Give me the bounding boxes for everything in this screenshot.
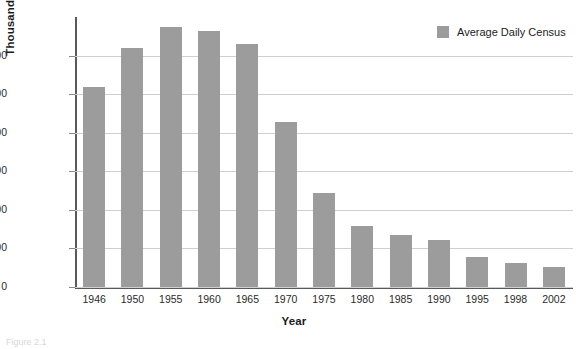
y-tick-label: 300 bbox=[0, 164, 7, 176]
x-axis-title: Year bbox=[0, 315, 588, 327]
bar bbox=[160, 27, 182, 287]
bar bbox=[236, 44, 258, 287]
bar bbox=[83, 87, 105, 287]
bar bbox=[313, 193, 335, 287]
bar bbox=[275, 122, 297, 287]
bar bbox=[198, 31, 220, 287]
y-tick-label: 100 bbox=[0, 241, 7, 253]
chart-legend: Average Daily Census bbox=[437, 26, 566, 38]
y-axis-title: Thousands of Patients bbox=[4, 0, 22, 88]
x-tick-label: 2002 bbox=[529, 293, 579, 305]
y-tick-label: 400 bbox=[0, 126, 7, 138]
y-tick-label: 0 bbox=[0, 280, 7, 292]
bar bbox=[505, 263, 527, 287]
y-tick-mark bbox=[69, 287, 75, 288]
bar bbox=[466, 257, 488, 287]
legend-label: Average Daily Census bbox=[457, 26, 566, 38]
y-tick-mark bbox=[69, 248, 75, 249]
y-tick-mark bbox=[69, 94, 75, 95]
bar bbox=[543, 267, 565, 287]
y-tick-mark bbox=[69, 171, 75, 172]
gridline bbox=[75, 94, 573, 95]
gridline bbox=[75, 133, 573, 134]
y-tick-label: 600 bbox=[0, 49, 7, 61]
y-tick-mark bbox=[69, 210, 75, 211]
chart-figure: Thousands of Patients 010020030040050060… bbox=[0, 0, 588, 349]
figure-caption: Figure 2.1 bbox=[6, 337, 47, 347]
bar bbox=[390, 235, 412, 287]
y-tick-mark bbox=[69, 133, 75, 134]
gridline bbox=[75, 56, 573, 57]
bar bbox=[428, 240, 450, 287]
gridline bbox=[75, 171, 573, 172]
gridline bbox=[75, 287, 573, 288]
y-tick-label: 200 bbox=[0, 203, 7, 215]
bar bbox=[351, 226, 373, 287]
y-tick-mark bbox=[69, 56, 75, 57]
y-tick-label: 500 bbox=[0, 87, 7, 99]
legend-swatch-icon bbox=[437, 26, 449, 38]
bar bbox=[121, 48, 143, 287]
plot-area bbox=[75, 17, 573, 287]
